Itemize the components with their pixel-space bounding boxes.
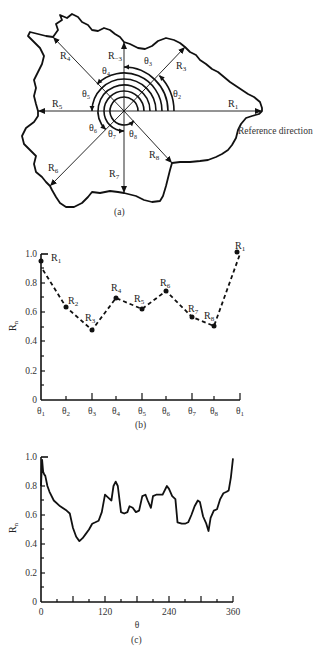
label-theta3: θ₃: [144, 55, 152, 66]
label-r3: R3: [176, 60, 187, 73]
label-r6: R6: [48, 162, 59, 175]
label-theta5: θ₅: [82, 88, 90, 99]
label-theta4: θ₄: [102, 65, 111, 76]
label-theta6: θ₆: [89, 122, 98, 133]
caption-a: (a): [114, 207, 125, 218]
chart-c-series: [41, 458, 233, 541]
chart-b-point-label: R4: [111, 282, 122, 295]
chart-c: 1.0 0.8 0.6 0.4 0.2 0 0 120 240 360 Rn θ…: [7, 452, 240, 646]
label-theta7: θ₇: [108, 128, 116, 139]
chart-b-xtick: θ7: [188, 406, 197, 418]
chart-c-xtick: 120: [98, 607, 113, 617]
chart-b-ytick: 0.4: [25, 336, 37, 346]
chart-c-ytick: 1.0: [25, 452, 37, 462]
chart-b-ylabel: Rn: [7, 320, 20, 331]
label-theta2: θ₂: [173, 88, 181, 99]
chart-b-xtick: θ1: [236, 406, 245, 418]
chart-b-ytick: 0.8: [25, 278, 37, 288]
angle-arcs: [92, 67, 174, 131]
chart-c-ytick: 0.6: [25, 510, 37, 520]
chart-b-ytick: 0: [32, 395, 37, 405]
chart-b-xtick: θ3: [88, 406, 97, 418]
chart-c-xtick: 360: [226, 607, 241, 617]
label-r7: R7: [109, 168, 120, 181]
reference-direction-label: Reference direction: [238, 126, 313, 136]
chart-b-point-label: R3: [85, 312, 96, 325]
chart-b-point: [39, 259, 44, 264]
chart-b-point: [212, 324, 217, 329]
label-r4: R4: [60, 50, 71, 63]
label-r-3: R−3: [108, 50, 123, 63]
chart-b-xtick: θ4: [112, 406, 121, 418]
figure-a-particle-diagram: R1 R3 R−3 R4 R5 R6 R7 R8 θ₂ θ₃ θ₄ θ₅ θ₆ …: [22, 14, 313, 218]
chart-b-point: [114, 296, 119, 301]
chart-b-point: [90, 328, 95, 333]
chart-c-ytick: 0.8: [25, 481, 37, 491]
chart-b-xtick: θ8: [210, 406, 219, 418]
label-r1: R1: [228, 98, 239, 111]
chart-b: 1.0 0.8 0.6 0.4 0.2 0 θ1 θ2 θ3 θ4 θ5 θ6 …: [7, 240, 246, 431]
chart-c-ytick: 0.4: [25, 539, 37, 549]
chart-b-point-label: R5: [134, 293, 145, 306]
chart-b-point-label: R1: [51, 252, 62, 265]
chart-c-ytick: 0: [32, 597, 37, 607]
chart-b-xtick: θ1: [37, 406, 46, 418]
label-theta8: θ₈: [129, 128, 138, 139]
figure-canvas: R1 R3 R−3 R4 R5 R6 R7 R8 θ₂ θ₃ θ₄ θ₅ θ₆ …: [0, 0, 326, 648]
label-r5: R5: [52, 98, 63, 111]
chart-c-xtick: 0: [39, 607, 44, 617]
chart-b-ytick: 0.2: [25, 366, 37, 376]
chart-c-ytick: 0.2: [25, 568, 37, 578]
chart-b-ytick: 1.0: [25, 249, 37, 259]
label-r8: R8: [149, 149, 160, 162]
chart-b-ytick: 0.6: [25, 307, 37, 317]
chart-b-point: [140, 307, 145, 312]
caption-b: (b): [135, 420, 146, 431]
chart-c-xtick: 240: [162, 607, 177, 617]
chart-b-point-label: R6: [160, 277, 171, 290]
chart-c-xlabel: θ: [135, 620, 140, 630]
chart-b-point-label: R2: [68, 295, 79, 308]
chart-c-ylabel: Rn: [7, 522, 20, 533]
chart-b-xtick: θ6: [162, 406, 171, 418]
chart-b-xtick: θ5: [138, 406, 147, 418]
chart-b-xtick: θ2: [62, 406, 71, 418]
caption-c: (c): [131, 635, 142, 646]
chart-b-point-label: R8: [204, 310, 215, 323]
chart-b-point-label: R7: [188, 303, 199, 316]
